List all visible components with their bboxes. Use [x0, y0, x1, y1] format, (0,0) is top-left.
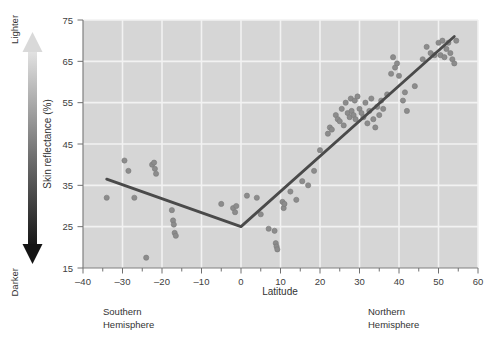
scatter-point — [339, 106, 344, 111]
figure-container: –40–30–20–100102030405060 15253545556575… — [0, 0, 500, 346]
x-tick-label: –10 — [194, 276, 210, 287]
scatter-point — [337, 119, 342, 124]
darker-label: Darker — [9, 268, 20, 297]
x-tick-label: 50 — [433, 276, 444, 287]
scatter-point — [440, 38, 445, 43]
scatter-point — [317, 148, 322, 153]
northern-hemisphere-label-line1: Northern — [368, 306, 405, 317]
scatter-point — [424, 44, 429, 49]
gradient-arrow-shaft — [28, 48, 37, 248]
scatter-point — [122, 158, 127, 163]
y-tick-label: 45 — [62, 139, 73, 150]
scatter-point — [442, 55, 447, 60]
x-tick-label: 0 — [238, 276, 243, 287]
scatter-point — [448, 50, 453, 55]
y-tick-label: 35 — [62, 180, 73, 191]
x-axis-ticks — [83, 268, 478, 274]
scatter-point — [412, 84, 417, 89]
lighter-label: Lighter — [9, 15, 20, 44]
scatter-point — [254, 195, 259, 200]
scatter-point — [311, 168, 316, 173]
scatter-point — [402, 90, 407, 95]
scatter-point — [371, 117, 376, 122]
x-tick-label: –30 — [115, 276, 131, 287]
x-tick-label: 60 — [473, 276, 484, 287]
y-tick-label: 25 — [62, 221, 73, 232]
scatter-point — [126, 168, 131, 173]
scatter-point — [234, 203, 239, 208]
scatter-point — [153, 171, 158, 176]
southern-hemisphere-label-line1: Southern — [103, 306, 142, 317]
y-tick-label: 15 — [62, 263, 73, 274]
scatter-point — [152, 166, 157, 171]
northern-hemisphere-label-line2: Hemisphere — [368, 319, 419, 330]
scatter-point — [275, 247, 280, 252]
scatter-point — [306, 183, 311, 188]
scatter-point — [288, 189, 293, 194]
scatter-point — [365, 121, 370, 126]
scatter-point — [452, 61, 457, 66]
scatter-point — [272, 228, 277, 233]
x-tick-label: –20 — [154, 276, 170, 287]
scatter-point — [343, 100, 348, 105]
scatter-point — [381, 106, 386, 111]
y-axis-tick-labels: 15253545556575 — [62, 15, 73, 274]
scatter-point — [329, 127, 334, 132]
scatter-point — [394, 61, 399, 66]
y-axis-title: Skin reflectance (%) — [42, 99, 53, 188]
darker-lighter-gradient-arrow — [23, 32, 43, 264]
scatter-point — [444, 46, 449, 51]
scatter-point — [152, 160, 157, 165]
scatter-point — [266, 226, 271, 231]
southern-hemisphere-label-line2: Hemisphere — [103, 319, 154, 330]
scatter-point — [219, 201, 224, 206]
scatter-point — [404, 108, 409, 113]
scatter-point — [355, 94, 360, 99]
scatter-point — [400, 98, 405, 103]
scatter-point — [294, 197, 299, 202]
x-tick-label: 40 — [394, 276, 405, 287]
scatter-point — [169, 208, 174, 213]
scatter-point — [325, 131, 330, 136]
scatter-point — [353, 117, 358, 122]
scatter-point — [369, 96, 374, 101]
y-tick-label: 55 — [62, 97, 73, 108]
x-tick-label: 20 — [315, 276, 326, 287]
y-tick-label: 65 — [62, 56, 73, 67]
scatter-point — [389, 71, 394, 76]
scatter-point — [300, 179, 305, 184]
x-tick-label: 30 — [354, 276, 365, 287]
scatter-point — [454, 38, 459, 43]
scatter-point — [363, 100, 368, 105]
scatter-point — [232, 210, 237, 215]
scatter-point — [104, 195, 109, 200]
scatter-point — [282, 201, 287, 206]
scatter-point — [373, 125, 378, 130]
gradient-arrow-head-up — [23, 32, 43, 52]
scatter-point — [144, 255, 149, 260]
scatter-point — [377, 112, 382, 117]
scatter-point — [420, 57, 425, 62]
scatter-point — [390, 55, 395, 60]
y-axis-ticks — [78, 20, 84, 268]
x-axis-title: Latitude — [262, 286, 298, 297]
x-tick-label: –40 — [75, 276, 91, 287]
scatter-point — [171, 222, 176, 227]
scatter-point — [396, 73, 401, 78]
scatter-point — [341, 123, 346, 128]
scatter-point — [244, 193, 249, 198]
skin-reflectance-latitude-chart: –40–30–20–100102030405060 15253545556575… — [0, 0, 500, 346]
scatter-point — [132, 195, 137, 200]
y-tick-label: 75 — [62, 15, 73, 26]
scatter-point — [173, 233, 178, 238]
gradient-arrow-head-down — [23, 244, 43, 264]
